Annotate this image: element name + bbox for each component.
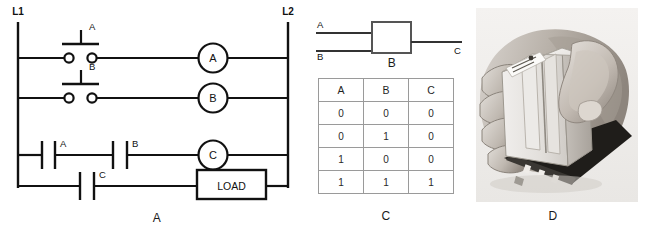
panel-d-caption: D <box>531 209 575 223</box>
truth-table: A B C 0 0 0 0 1 0 1 0 0 1 1 1 <box>318 78 454 194</box>
table-header-row: A B C <box>319 79 454 102</box>
photo-shadow <box>490 175 602 193</box>
table-row: 0 1 0 <box>319 125 454 148</box>
hand-holding-module-photo <box>476 8 638 202</box>
pushbutton-b-label: B <box>89 61 95 72</box>
table-row: 1 0 0 <box>319 148 454 171</box>
contact-c-label: C <box>99 169 106 180</box>
table-cell: 1 <box>319 171 364 194</box>
panel-c-caption: C <box>364 209 408 223</box>
coil-c-label: C <box>209 149 217 161</box>
logic-gate-panel: A B C B <box>310 0 470 75</box>
coil-a-label: A <box>209 52 217 64</box>
photograph-panel <box>476 8 638 202</box>
contact-a-label: A <box>60 138 67 149</box>
pushbutton-b-terminal-right <box>87 93 96 102</box>
table-cell: 0 <box>409 102 454 125</box>
table-header-b: B <box>364 79 409 102</box>
table-cell: 1 <box>364 125 409 148</box>
panel-b-caption: B <box>370 56 414 70</box>
coil-b-label: B <box>209 92 216 104</box>
table-cell: 1 <box>319 148 364 171</box>
table-cell: 1 <box>364 171 409 194</box>
gate-input-b-label: B <box>317 51 323 62</box>
table-cell: 0 <box>409 125 454 148</box>
rung-4: C LOAD <box>18 169 288 200</box>
ladder-diagram-panel: L1 L2 A A <box>0 0 305 237</box>
figure-root: L1 L2 A A <box>0 0 649 237</box>
panel-a-caption: A <box>135 211 179 225</box>
table-cell: 0 <box>319 102 364 125</box>
table-header-c: C <box>409 79 454 102</box>
table-row: 1 1 1 <box>319 171 454 194</box>
rung-1: A A <box>18 21 288 73</box>
ladder-diagram-svg: L1 L2 A A <box>0 0 305 215</box>
table-header-a: A <box>319 79 364 102</box>
load-box-label: LOAD <box>217 180 246 192</box>
table-cell: 0 <box>364 102 409 125</box>
table-cell: 0 <box>409 148 454 171</box>
gate-input-a-label: A <box>317 19 324 30</box>
rail-label-l2: L2 <box>282 6 294 17</box>
pushbutton-b-terminal-left <box>64 93 73 102</box>
table-cell: 0 <box>364 148 409 171</box>
rung-2: B B <box>18 61 288 113</box>
module-indicator-dot <box>529 56 534 61</box>
gate-body <box>372 22 411 53</box>
pushbutton-a-terminal-left <box>64 53 73 62</box>
gate-output-label: C <box>454 45 461 56</box>
table-cell: 0 <box>319 125 364 148</box>
rung-3: A B C <box>18 138 288 170</box>
pushbutton-a-label: A <box>89 21 96 32</box>
rail-label-l1: L1 <box>12 6 24 17</box>
contact-b-label: B <box>132 138 138 149</box>
table-cell: 1 <box>409 171 454 194</box>
table-row: 0 0 0 <box>319 102 454 125</box>
